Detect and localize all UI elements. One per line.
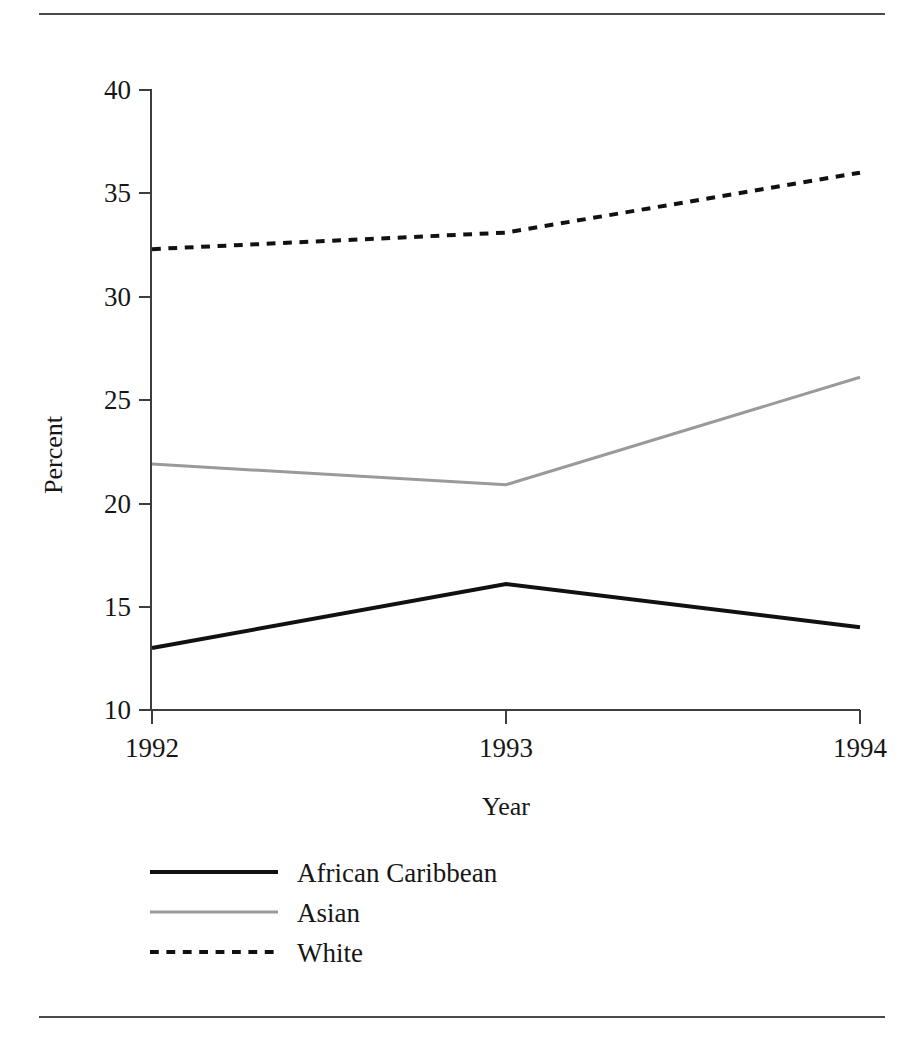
series-line-asian [152,377,860,484]
y-axis-title: Percent [39,415,68,494]
figure-page: 40 35 30 25 20 15 10 1992 1993 1994 Perc… [0,0,924,1038]
x-tick-label-1992: 1992 [125,733,179,763]
legend-label-asian: Asian [297,898,360,928]
series-line-african-caribbean [152,584,860,648]
y-tick-label-15: 15 [104,592,131,622]
y-tick-label-30: 30 [104,282,131,312]
y-tick-label-10: 10 [104,695,131,725]
y-tick-label-20: 20 [104,489,131,519]
y-tick-label-25: 25 [104,385,131,415]
y-tick-label-35: 35 [104,178,131,208]
series-line-white [152,173,860,249]
x-axis-title: Year [482,792,530,821]
legend-label-white: White [297,938,363,968]
y-tick-label-40: 40 [104,75,131,105]
legend-label-african-caribbean: African Caribbean [297,858,498,888]
line-chart: 40 35 30 25 20 15 10 1992 1993 1994 Perc… [0,0,924,1038]
x-tick-label-1994: 1994 [833,733,888,763]
x-tick-label-1993: 1993 [479,733,533,763]
